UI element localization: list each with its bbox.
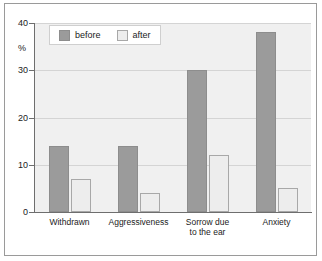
legend-label-after: after <box>133 31 151 40</box>
y-tick-label: 20 <box>6 114 28 123</box>
y-tick-mark <box>29 118 34 119</box>
legend-item-after[interactable]: after <box>117 30 151 41</box>
y-axis-tick-labels: 010203040 <box>5 4 28 261</box>
bar-before-4 <box>256 32 276 212</box>
y-tick-mark <box>29 212 34 213</box>
y-tick-label: 10 <box>6 161 28 170</box>
bar-after-1 <box>71 179 91 212</box>
bar-after-4 <box>278 188 298 212</box>
y-tick-mark <box>29 165 34 166</box>
chart-frame: % before after 010203040 WithdrawnAggres… <box>4 3 317 256</box>
x-axis-category-label: Sorrow due to the ear <box>173 217 242 237</box>
bar-after-2 <box>140 193 160 212</box>
legend-label-before: before <box>75 31 101 40</box>
y-tick-label: 0 <box>6 208 28 217</box>
x-axis-category-label: Withdrawn <box>35 217 104 227</box>
plot-area <box>35 23 311 212</box>
x-axis-line <box>34 212 312 213</box>
y-tick-mark <box>29 70 34 71</box>
y-tick-mark <box>29 23 34 24</box>
y-tick-label: 30 <box>6 66 28 75</box>
y-tick-label: 40 <box>6 19 28 28</box>
bar-before-1 <box>49 146 69 212</box>
legend-swatch-before-icon <box>59 30 70 41</box>
x-axis-category-label: Aggressiveness <box>104 217 173 227</box>
bar-before-3 <box>187 70 207 212</box>
bar-before-2 <box>118 146 138 212</box>
bar-after-3 <box>209 155 229 212</box>
legend-item-before[interactable]: before <box>59 30 101 41</box>
y-axis-line <box>34 23 35 213</box>
x-axis-category-label: Anxiety <box>242 217 311 227</box>
chart-legend: before after <box>49 25 161 45</box>
gridline <box>35 23 311 24</box>
legend-swatch-after-icon <box>117 30 128 41</box>
